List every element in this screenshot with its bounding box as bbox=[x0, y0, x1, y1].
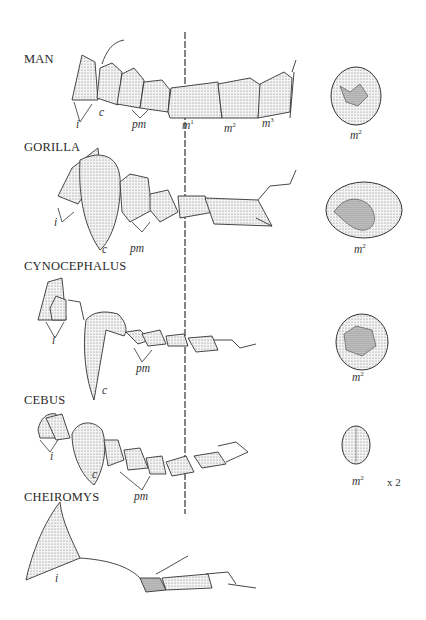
label-canine: c bbox=[102, 384, 107, 396]
label-premolar: pm bbox=[136, 362, 150, 374]
species-label-cynocephalus: CYNOCEPHALUS bbox=[24, 259, 126, 274]
cheiromys-incisor bbox=[26, 502, 80, 580]
species-label-cebus: CEBUS bbox=[24, 393, 65, 408]
label-molar3: m3 bbox=[262, 116, 274, 129]
label-molar2: m2 bbox=[224, 121, 236, 134]
label-incisor: i bbox=[54, 216, 57, 228]
man-tooth-row bbox=[72, 40, 296, 118]
figure-drawing bbox=[0, 0, 426, 620]
cebus-tooth-row bbox=[38, 414, 248, 485]
label-premolar: pm bbox=[130, 242, 144, 254]
species-label-gorilla: GORILLA bbox=[24, 140, 80, 155]
label-incisor: i bbox=[76, 118, 79, 130]
cynocephalus-tooth-row bbox=[38, 278, 256, 400]
species-label-cheiromys: CHEIROMYS bbox=[24, 490, 99, 505]
label-molar1: m1 bbox=[182, 118, 194, 131]
species-label-man: MAN bbox=[24, 52, 54, 67]
cebus-crown-label: m2 bbox=[352, 474, 364, 487]
label-incisor: i bbox=[55, 572, 58, 584]
cheiromys-tooth-row bbox=[26, 502, 256, 592]
gorilla-crown-label: m2 bbox=[354, 242, 366, 255]
label-incisor: i bbox=[52, 334, 55, 346]
man-crown-label: m2 bbox=[350, 128, 362, 141]
cynocephalus-crown-label: m2 bbox=[352, 370, 364, 383]
label-premolar: pm bbox=[132, 118, 146, 130]
gorilla-tooth-row bbox=[58, 148, 296, 250]
label-incisor: i bbox=[50, 450, 53, 462]
label-canine: c bbox=[92, 468, 97, 480]
label-canine: c bbox=[99, 106, 104, 118]
label-premolar: pm bbox=[134, 490, 148, 502]
label-canine: c bbox=[102, 243, 107, 255]
dentition-figure: MAN GORILLA CYNOCEPHALUS CEBUS CHEIROMYS… bbox=[0, 0, 426, 620]
scale-label: x 2 bbox=[387, 476, 401, 488]
